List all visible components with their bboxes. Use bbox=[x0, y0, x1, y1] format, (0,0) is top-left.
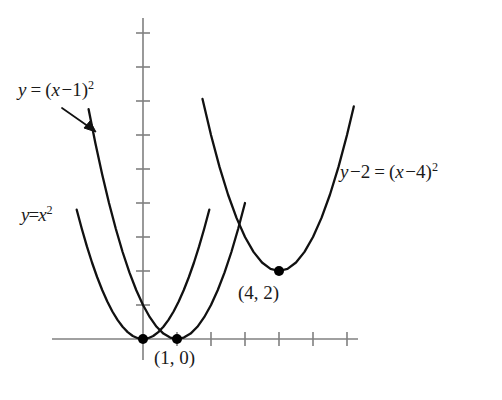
figure-canvas bbox=[0, 0, 502, 400]
curve3-minus-lhs-sign: − bbox=[350, 161, 361, 182]
axes-group bbox=[52, 18, 358, 360]
curve3-horizontal-shift: 4 bbox=[416, 161, 426, 182]
pointer-arrow-head bbox=[84, 121, 96, 132]
curve2-exponent: 2 bbox=[47, 203, 53, 217]
curve1-exponent: 2 bbox=[88, 78, 94, 92]
point-marker-4-2 bbox=[274, 266, 284, 276]
curve-label-y-minus-2-equals-x-minus-4-squared: y −2=(x −4)2 bbox=[340, 162, 438, 181]
curves-group bbox=[77, 99, 354, 339]
parabola-figure: y=(x −1)2 y=x2 y −2=(x −4)2 (1, 0) (4, 2… bbox=[0, 0, 502, 400]
curve-y-minus-2-equals-x-minus-4-squared bbox=[203, 99, 354, 271]
curve-label-y-equals-x-minus-1-squared: y=(x −1)2 bbox=[18, 80, 94, 99]
curve3-exponent: 2 bbox=[432, 160, 438, 174]
point-label-4-2: (4, 2) bbox=[238, 283, 279, 302]
curve1-inner-var: x bbox=[51, 79, 59, 100]
curve3-inner-var: x bbox=[395, 161, 403, 182]
curve1-equals-sign: = bbox=[30, 79, 41, 100]
curve3-lhs-var: y bbox=[340, 161, 348, 182]
curve3-equals-sign: = bbox=[374, 161, 385, 182]
curve1-shift-value: 1 bbox=[72, 79, 82, 100]
point-marker-1-0 bbox=[172, 334, 182, 344]
curve3-vertical-shift: 2 bbox=[361, 161, 371, 182]
curve-y-equals-x-minus-1-squared bbox=[89, 109, 245, 339]
point-marker-origin bbox=[138, 334, 148, 344]
curve2-inner-var: x bbox=[38, 204, 46, 225]
curve-label-y-equals-x-squared: y=x2 bbox=[21, 205, 53, 224]
point-label-1-0: (1, 0) bbox=[154, 348, 195, 367]
curve3-minus-sign: − bbox=[405, 161, 416, 182]
curve1-minus-sign: − bbox=[62, 79, 73, 100]
curve1-lhs-var: y bbox=[18, 79, 26, 100]
